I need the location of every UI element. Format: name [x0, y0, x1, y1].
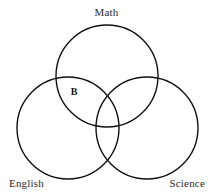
set-label-science: Science	[169, 177, 205, 189]
venn-circle-math	[56, 25, 158, 127]
venn-diagram: Math English Science B	[0, 0, 213, 196]
set-label-english: English	[9, 177, 44, 189]
venn-circle-science	[96, 77, 198, 179]
region-label-b: B	[66, 86, 82, 98]
set-label-math: Math	[0, 6, 213, 18]
venn-circles-canvas	[0, 0, 213, 196]
